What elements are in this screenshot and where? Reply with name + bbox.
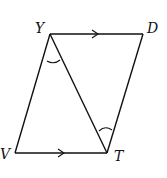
angle-arc-ytd-icon: [99, 128, 112, 131]
segment-dt: [107, 34, 143, 153]
segment-vy: [15, 34, 50, 153]
segment-yt-diagonal: [50, 34, 107, 153]
label-t: T: [114, 148, 125, 164]
label-v: V: [0, 146, 12, 162]
geometry-diagram: Y D V T: [0, 0, 167, 178]
label-y: Y: [35, 20, 46, 36]
label-d: D: [146, 20, 158, 36]
angle-arc-vyt-icon: [47, 60, 60, 63]
